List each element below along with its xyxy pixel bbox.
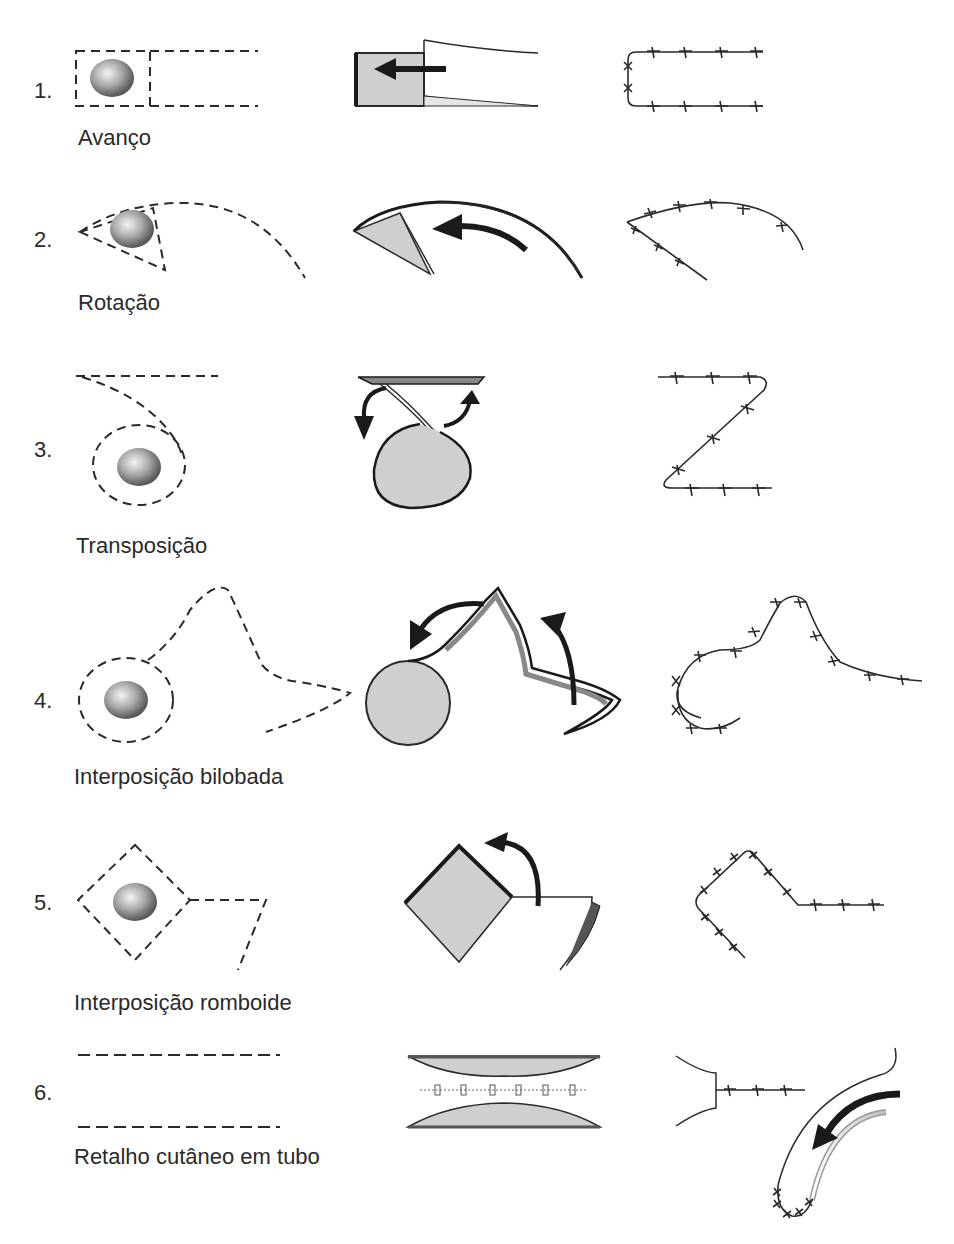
row-4-closure xyxy=(672,596,922,734)
lesion-icon xyxy=(113,883,157,921)
row-number: 4. xyxy=(34,688,52,714)
row-number: 3. xyxy=(34,437,52,463)
row-label-tube-flap: Retalho cutâneo em tubo xyxy=(74,1144,320,1170)
flap-diagram xyxy=(0,0,954,1244)
lesion-icon xyxy=(104,681,148,719)
row-5-defect xyxy=(78,845,266,970)
row-1-flap xyxy=(356,40,538,106)
curved-arrow-icon xyxy=(540,612,574,705)
curved-arrow-icon xyxy=(432,214,526,250)
row-label-rhomboid: Interposição romboide xyxy=(74,990,292,1016)
row-6-closure xyxy=(676,1048,900,1218)
row-number: 2. xyxy=(34,227,52,253)
row-5-flap xyxy=(405,832,600,970)
row-label-advancement: Avanço xyxy=(78,125,151,151)
row-3-flap xyxy=(354,377,484,508)
row-1-closure xyxy=(624,47,763,112)
row-6-defect xyxy=(78,1055,280,1127)
row-3-defect xyxy=(76,376,218,505)
row-4-defect xyxy=(79,588,350,743)
row-5-closure xyxy=(696,851,884,958)
row-label-transposition: Transposição xyxy=(76,533,207,559)
lesion-icon xyxy=(90,59,134,97)
row-6-flap xyxy=(408,1056,600,1127)
row-2-defect xyxy=(80,203,305,278)
lesion-icon xyxy=(110,210,154,248)
row-label-bilobed: Interposição bilobada xyxy=(74,764,283,790)
row-number: 6. xyxy=(34,1080,52,1106)
row-4-flap xyxy=(366,588,620,745)
row-1-defect xyxy=(76,51,258,106)
lesion-icon xyxy=(117,448,161,486)
row-2-closure xyxy=(627,199,803,280)
curved-arrow-icon xyxy=(444,390,480,426)
curved-arrow-icon xyxy=(354,388,386,440)
row-2-flap xyxy=(354,202,582,278)
row-number: 5. xyxy=(34,890,52,916)
row-3-closure xyxy=(658,372,772,496)
row-number: 1. xyxy=(34,78,52,104)
row-label-rotation: Rotação xyxy=(78,290,160,316)
